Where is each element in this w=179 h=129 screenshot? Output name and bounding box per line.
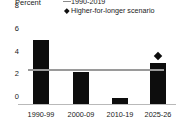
- chart-legend: 1990-2019 Higher-for-longer scenario: [62, 0, 178, 15]
- x-axis-tick-label: 2025-26: [145, 110, 172, 119]
- x-axis-tick-label: 2000-09: [68, 110, 95, 119]
- bar-2010-19[interactable]: [112, 98, 128, 104]
- y-axis-tick-label: 2: [15, 70, 19, 78]
- y-axis-tick-label: 8: [15, 2, 19, 10]
- scenario-diamond-marker[interactable]: [154, 52, 162, 60]
- x-axis-line: [18, 104, 176, 105]
- historical-average-reference-line: [28, 69, 164, 71]
- x-axis-tick-label: 1990-99: [28, 110, 55, 119]
- bar-1990-99[interactable]: [33, 40, 49, 104]
- y-axis-tick-label: 4: [15, 48, 19, 56]
- y-axis-tick-label: 6: [15, 25, 19, 33]
- bar-2000-09[interactable]: [73, 72, 89, 104]
- plot-area: 0 2 4 6 8 1990-99 2000-09 2010-19 2025-2…: [22, 14, 174, 105]
- y-axis-tick-label: 0: [15, 93, 19, 101]
- bar-chart: Percent 1990-2019 Higher-for-longer scen…: [0, 0, 179, 129]
- x-axis-tick-label: 2010-19: [107, 110, 134, 119]
